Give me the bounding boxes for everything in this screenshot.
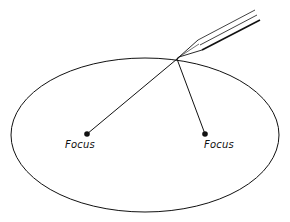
right-focus-label: Focus [204,139,234,150]
string-to-left-focus [87,59,177,134]
ellipse [11,58,279,212]
ellipse-diagram: Focus Focus [0,0,290,222]
right-focus-point [202,131,208,137]
left-focus-point [84,131,90,137]
diagram-canvas [0,0,290,222]
string-to-right-focus [177,59,205,134]
pencil-icon [177,10,260,59]
left-focus-label: Focus [65,139,95,150]
